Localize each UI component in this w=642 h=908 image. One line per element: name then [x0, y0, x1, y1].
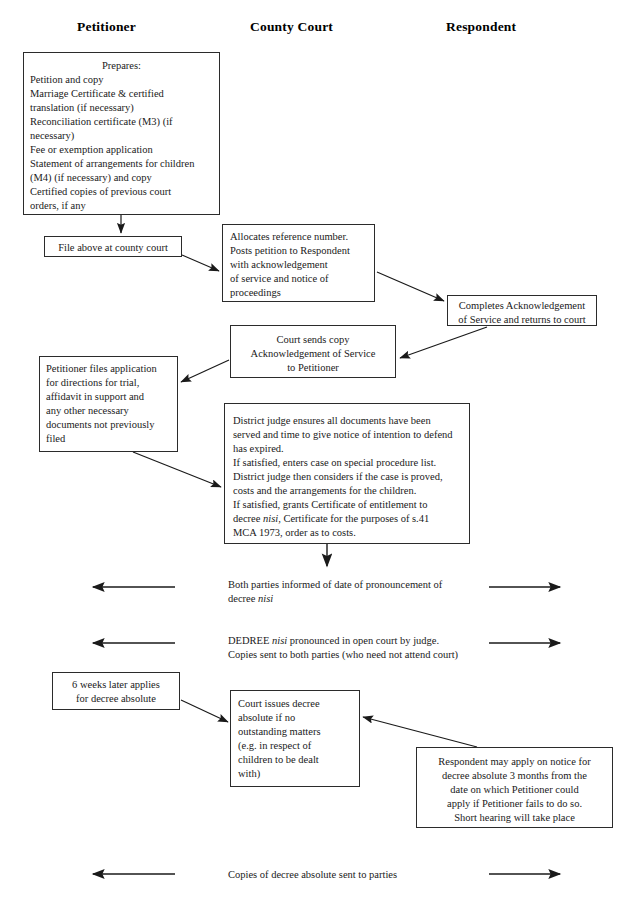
- flow-text-copies-decree-absolute-line-0: Copies of decree absolute sent to partie…: [228, 868, 397, 882]
- box-court-sends-copy: Court sends copy Acknowledgement of Serv…: [230, 325, 396, 378]
- box-court-issues-decree-absolute-line-0: Court issues decree: [238, 697, 352, 711]
- box-district-judge-line-3: If satisfied, enters case on special pro…: [233, 456, 461, 470]
- flow-text-decree-nisi-pronounced-line-0: DEDREE nisi pronounced in open court by …: [228, 634, 458, 648]
- arrow-court-sends-to-petitioner-files: [181, 360, 229, 382]
- column-heading-respondent: Respondent: [446, 19, 516, 35]
- box-respondent-may-apply-line-3: apply if Petitioner fails to do so.: [423, 797, 606, 811]
- box-district-judge-line-0: District judge ensures all documents hav…: [233, 414, 461, 428]
- box-respondent-may-apply-line-0: Respondent may apply on notice for: [423, 755, 606, 769]
- box-court-sends-copy-line-2: to Petitioner: [237, 361, 389, 375]
- box-district-judge-line-8: MCA 1973, order as to costs.: [233, 526, 461, 540]
- box-district-judge-line-4: District judge then considers if the cas…: [233, 470, 461, 484]
- box-prepares-line-10: orders, if any: [30, 199, 213, 213]
- box-prepares-line-6: Fee or exemption application: [30, 143, 213, 157]
- box-respondent-may-apply-line-2: date on which Petitioner could: [423, 783, 606, 797]
- box-prepares-line-9: Certified copies of previous court: [30, 185, 213, 199]
- arrow-petitioner-files-to-district-judge: [133, 452, 221, 487]
- box-petitioner-files-application-line-2: affidavit in support and: [46, 390, 171, 404]
- box-petitioner-files-application-line-0: Petitioner files application: [46, 362, 171, 376]
- box-prepares-line-4: Reconciliation certificate (M3) (if: [30, 115, 213, 129]
- box-petitioner-files-application-line-1: for directions for trial,: [46, 376, 171, 390]
- box-court-issues-decree-absolute-line-4: children to be dealt: [238, 753, 352, 767]
- box-allocates-reference-line-1: Posts petition to Respondent: [230, 244, 367, 258]
- arrow-allocates-to-completes: [377, 272, 444, 301]
- box-district-judge-line-5: costs and the arrangements for the child…: [233, 484, 461, 498]
- box-district-judge-line-6: If satisfied, grants Certificate of enti…: [233, 498, 461, 512]
- box-court-issues-decree-absolute: Court issues decree absolute if no outst…: [230, 690, 360, 787]
- box-prepares: Prepares: Petition and copy Marriage Cer…: [23, 52, 220, 215]
- box-petitioner-files-application-line-4: documents not previously: [46, 418, 171, 432]
- arrow-respondent-apply-to-court-issues: [363, 717, 477, 747]
- box-prepares-line-3: translation (if necessary): [30, 101, 213, 115]
- box-petitioner-files-application: Petitioner files application for directi…: [39, 356, 178, 452]
- box-allocates-reference: Allocates reference number. Posts petiti…: [222, 224, 375, 302]
- flow-text-decree-nisi-pronounced: DEDREE nisi pronounced in open court by …: [228, 634, 458, 662]
- arrow-completes-to-court-sends: [400, 327, 487, 358]
- box-petitioner-files-application-line-5: filed: [46, 432, 171, 446]
- box-district-judge-line-7: decree nisi, Certificate for the purpose…: [233, 512, 461, 526]
- column-heading-county-court: County Court: [250, 19, 333, 35]
- box-petitioner-files-application-line-3: any other necessary: [46, 404, 171, 418]
- box-court-issues-decree-absolute-line-1: absolute if no: [238, 711, 352, 725]
- box-completes-acknowledgement: Completes Acknowledgement of Service and…: [447, 295, 597, 326]
- box-six-weeks-later: 6 weeks later applies for decree absolut…: [52, 672, 180, 710]
- box-respondent-may-apply-line-4: Short hearing will take place: [423, 811, 606, 825]
- box-allocates-reference-line-0: Allocates reference number.: [230, 230, 367, 244]
- box-court-sends-copy-line-1: Acknowledgement of Service: [237, 347, 389, 361]
- box-respondent-may-apply-line-1: decree absolute 3 months from the: [423, 769, 606, 783]
- box-court-issues-decree-absolute-line-5: with): [238, 767, 352, 781]
- box-allocates-reference-line-2: with acknowledgement: [230, 258, 367, 272]
- flow-text-pronouncement-notice: Both parties informed of date of pronoun…: [228, 578, 442, 606]
- box-file-at-county-court: File above at county court: [44, 236, 182, 257]
- box-respondent-may-apply: Respondent may apply on notice for decre…: [416, 747, 613, 828]
- box-file-at-county-court-line-0: File above at county court: [49, 240, 177, 255]
- box-allocates-reference-line-3: of service and notice of: [230, 272, 367, 286]
- box-prepares-line-1: Petition and copy: [30, 73, 213, 87]
- box-completes-acknowledgement-line-1: of Service and returns to court: [452, 313, 592, 327]
- flow-text-copies-decree-absolute: Copies of decree absolute sent to partie…: [228, 868, 397, 882]
- box-six-weeks-later-line-0: 6 weeks later applies: [59, 678, 173, 692]
- box-prepares-line-0: Prepares:: [30, 59, 213, 73]
- box-prepares-line-8: (M4) (if necessary) and copy: [30, 171, 213, 185]
- box-district-judge: District judge ensures all documents hav…: [224, 403, 470, 544]
- box-completes-acknowledgement-line-0: Completes Acknowledgement: [452, 299, 592, 313]
- box-prepares-line-5: necessary): [30, 129, 213, 143]
- column-heading-petitioner: Petitioner: [77, 19, 136, 35]
- box-district-judge-line-1: served and time to give notice of intent…: [233, 428, 461, 442]
- box-prepares-line-2: Marriage Certificate & certified: [30, 87, 213, 101]
- box-court-issues-decree-absolute-line-3: (e.g. in respect of: [238, 739, 352, 753]
- flow-text-pronouncement-notice-line-1: decree nisi: [228, 592, 442, 606]
- box-prepares-line-7: Statement of arrangements for children: [30, 157, 213, 171]
- box-allocates-reference-line-4: proceedings: [230, 286, 367, 300]
- flowchart-page: Petitioner County Court Respondent: [0, 0, 642, 908]
- box-court-issues-decree-absolute-line-2: outstanding matters: [238, 725, 352, 739]
- flow-text-decree-nisi-pronounced-line-1: Copies sent to both parties (who need no…: [228, 648, 458, 662]
- box-court-sends-copy-line-0: Court sends copy: [237, 333, 389, 347]
- flow-text-pronouncement-notice-line-0: Both parties informed of date of pronoun…: [228, 578, 442, 592]
- arrow-file-to-allocates: [182, 255, 219, 271]
- arrow-six-weeks-to-court-issues: [181, 700, 228, 722]
- box-six-weeks-later-line-1: for decree absolute: [59, 692, 173, 706]
- box-district-judge-line-2: has expired.: [233, 442, 461, 456]
